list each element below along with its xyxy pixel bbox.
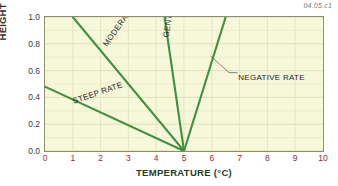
x-axis-title: TEMPERATURE (°C) [44, 167, 324, 178]
y-axis-tick-labels: 0.00.20.40.60.81.0 [0, 16, 40, 152]
grid-lines [45, 17, 323, 151]
y-tick-label: 0.4 [2, 92, 40, 102]
x-tick-label: 4 [144, 153, 168, 163]
x-tick-label: 0 [33, 153, 57, 163]
y-tick-label: 1.0 [2, 12, 40, 22]
figure-root: 04.05.c1 HEIGHT (km) 0.00.20.40.60.81.0 … [0, 0, 338, 186]
y-tick-label: 0.6 [2, 66, 40, 76]
chart-canvas [45, 17, 323, 151]
y-tick-label: 0.2 [2, 119, 40, 129]
x-tick-label: 2 [89, 153, 113, 163]
x-tick-label: 3 [116, 153, 140, 163]
x-tick-label: 8 [255, 153, 279, 163]
y-tick-label: 0.8 [2, 39, 40, 49]
x-tick-label: 9 [283, 153, 307, 163]
x-tick-label: 10 [311, 153, 335, 163]
plot-area: STEEP RATEMODERATE RATEGENTLE RATENEGATI… [44, 16, 324, 152]
x-tick-label: 7 [228, 153, 252, 163]
figure-id-label: 04.05.c1 [304, 2, 332, 9]
x-tick-label: 6 [200, 153, 224, 163]
x-tick-label: 1 [61, 153, 85, 163]
x-tick-label: 5 [172, 153, 196, 163]
x-axis-tick-labels: 012345678910 [44, 153, 324, 167]
leader-line-negative-rate [210, 56, 237, 73]
annotation-negative-rate: NEGATIVE RATE [238, 73, 305, 82]
